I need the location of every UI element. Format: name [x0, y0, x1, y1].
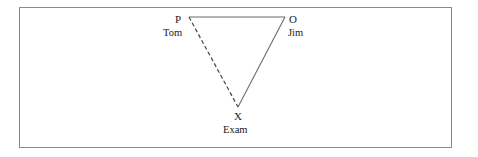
person-label-tom: Tom [163, 27, 182, 39]
edge-p-x [189, 17, 238, 107]
vertex-label-o: O [289, 13, 297, 25]
vertex-label-x: X [234, 110, 242, 122]
figure-root: P Tom O Jim X Exam [0, 0, 478, 157]
person-label-jim: Jim [288, 27, 303, 39]
person-label-exam: Exam [223, 124, 248, 136]
vertex-label-p: P [175, 13, 181, 25]
edge-o-x [238, 17, 285, 107]
